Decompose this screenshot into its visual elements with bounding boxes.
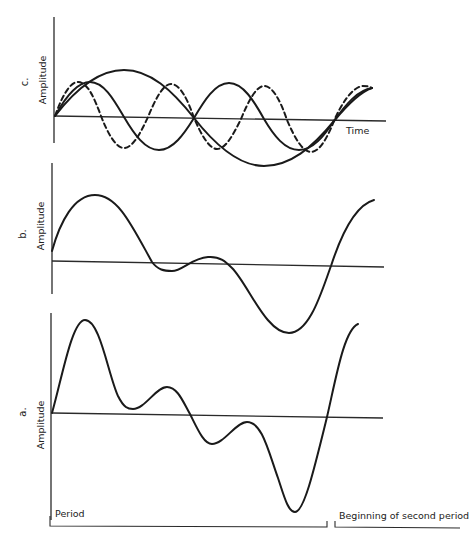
waveform-figure: c. Amplitude Time b. Amplitude a. Amplit…: [0, 0, 474, 542]
panel-b-tag: b.: [17, 229, 28, 239]
period-label: Period: [55, 508, 85, 519]
panel-c-xlabel: Time: [345, 125, 369, 136]
second-period-bracket: [335, 521, 460, 528]
panel-a-waveform: [52, 320, 358, 512]
panel-c: c. Amplitude Time: [19, 17, 386, 166]
panel-b-ylabel: Amplitude: [35, 202, 46, 251]
panel-b-x-axis: [52, 261, 384, 267]
panel-a-tag: a.: [17, 407, 28, 416]
panel-c-ylabel: Amplitude: [37, 56, 48, 105]
panel-c-tag: c.: [19, 78, 30, 87]
period-bracket: [50, 516, 327, 527]
panel-a: a. Amplitude: [17, 313, 383, 520]
second-period-label: Beginning of second period: [339, 510, 469, 521]
period-brackets: Period Beginning of second period: [50, 508, 469, 528]
panel-a-x-axis: [52, 413, 383, 418]
panel-a-ylabel: Amplitude: [35, 401, 46, 450]
panel-b: b. Amplitude: [17, 163, 384, 333]
